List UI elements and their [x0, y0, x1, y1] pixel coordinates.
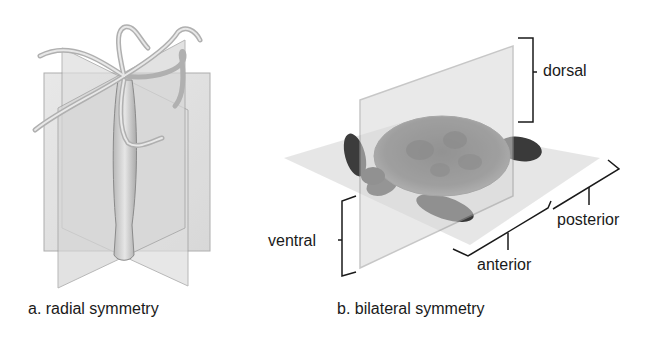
caption-radial-symmetry: a. radial symmetry: [28, 300, 159, 318]
label-ventral: ventral: [268, 232, 316, 250]
plane-sagittal: [360, 46, 513, 268]
symmetry-diagram: [0, 0, 654, 345]
label-anterior: anterior: [477, 256, 531, 274]
hydra-body: [113, 80, 136, 260]
caption-bilateral-symmetry: b. bilateral symmetry: [337, 300, 485, 318]
label-dorsal: dorsal: [543, 62, 587, 80]
radial-symmetry-figure: [35, 27, 210, 288]
label-posterior: posterior: [557, 211, 619, 229]
